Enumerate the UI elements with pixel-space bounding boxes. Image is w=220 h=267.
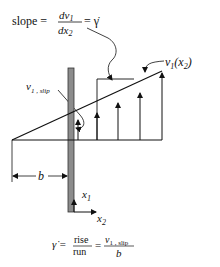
shear-rate-symbol: = γ̇: [84, 14, 100, 28]
profile-leader-line: [145, 61, 164, 72]
shear-rate-equation: γ̇ = rise run = v1 , slip b: [52, 234, 134, 259]
run-label: run: [73, 246, 86, 257]
x2-label: x2: [96, 212, 106, 227]
coordinate-axes: x1 x2: [74, 188, 106, 227]
slope-equation: slope = dv1 dx2 = γ̇: [12, 9, 100, 38]
gamma-dot-lhs: γ̇ =: [52, 238, 67, 250]
slip-label: v1 , slip: [26, 80, 50, 95]
x1-label: x1: [81, 188, 91, 203]
slope-numerator: dv1: [59, 9, 73, 23]
b-dimension: b: [12, 140, 67, 183]
rise-label: rise: [74, 234, 89, 245]
b-denominator: b: [116, 247, 122, 259]
profile-label: v1(x2): [165, 55, 192, 71]
b-label: b: [38, 169, 44, 183]
rise-run-bracket: [97, 79, 134, 140]
slip-numerator: v1 , slip: [105, 234, 129, 247]
slope-leader-line: [87, 28, 116, 80]
equals-sign: =: [95, 239, 101, 251]
velocity-arrows: [78, 73, 162, 140]
slope-label: slope =: [12, 14, 47, 28]
diagram: slope = dv1 dx2 = γ̇ v1(x2) v1 , slip b …: [0, 0, 220, 267]
slope-denominator: dx2: [58, 24, 72, 38]
